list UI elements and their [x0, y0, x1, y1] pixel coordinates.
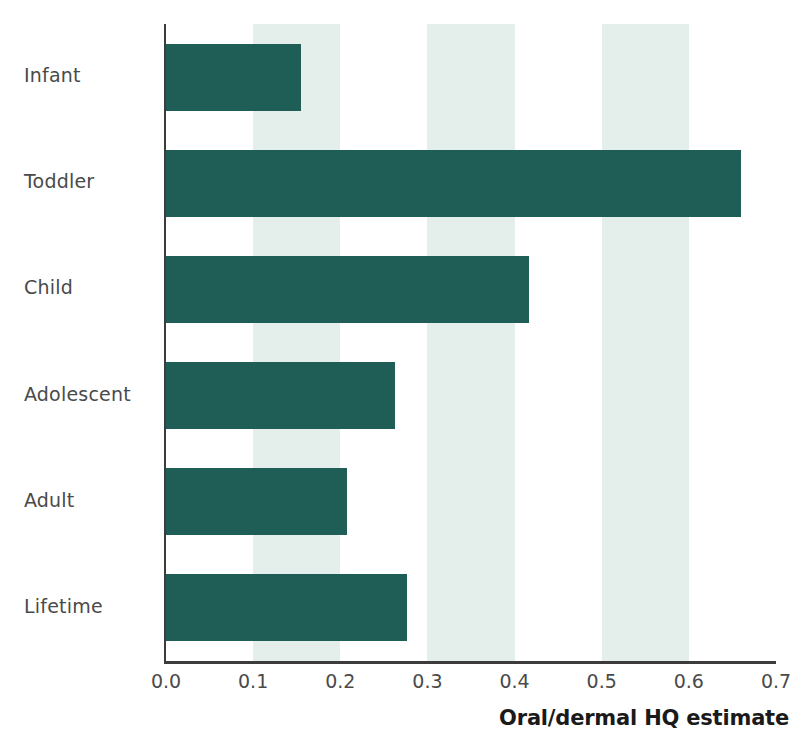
grid-band [602, 24, 689, 661]
category-label-text: Adolescent [0, 383, 142, 405]
grid-band [253, 24, 340, 661]
category-label: Adolescent [0, 383, 142, 405]
x-tick-label: 0.3 [397, 670, 457, 692]
x-tick-label: 0.6 [659, 670, 719, 692]
bar-chart: InfantToddlerChildAdolescentAdultLifetim… [0, 0, 807, 749]
x-tick-label: 0.5 [572, 670, 632, 692]
category-label: Lifetime [0, 595, 142, 617]
y-axis-line [164, 24, 166, 661]
category-label-text: Child [0, 276, 142, 298]
grid-band [427, 24, 514, 661]
category-label: Toddler [0, 170, 142, 192]
bar-toddler [166, 150, 741, 217]
category-label-text: Toddler [0, 170, 142, 192]
category-label: Child [0, 276, 142, 298]
bar-infant [166, 44, 301, 111]
x-tick-label: 0.4 [485, 670, 545, 692]
bar-adolescent [166, 362, 395, 429]
category-label-text: Adult [0, 489, 142, 511]
bar-child [166, 256, 529, 323]
category-label-text: Infant [0, 64, 142, 86]
x-tick-label: 0.0 [136, 670, 196, 692]
category-label-text: Lifetime [0, 595, 142, 617]
x-axis-line [164, 661, 776, 664]
plot-area [166, 24, 776, 661]
x-tick-label: 0.7 [746, 670, 806, 692]
bar-adult [166, 468, 347, 535]
x-tick-label: 0.1 [223, 670, 283, 692]
x-axis-title: Oral/dermal HQ estimate [499, 706, 789, 730]
category-label: Infant [0, 64, 142, 86]
bar-lifetime [166, 574, 407, 641]
category-label: Adult [0, 489, 142, 511]
x-tick-label: 0.2 [310, 670, 370, 692]
